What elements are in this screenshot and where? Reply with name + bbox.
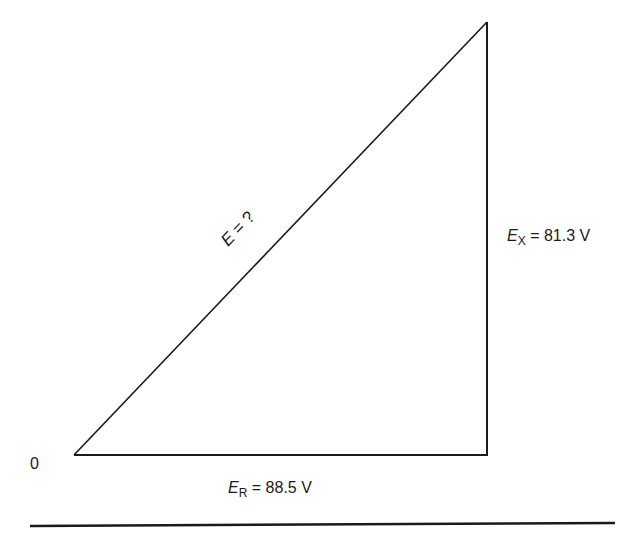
- er-value: = 88.5 V: [247, 479, 312, 496]
- ex-value: = 81.3 V: [526, 227, 591, 244]
- voltage-triangle-diagram: 0 E = ? EX = 81.3 V ER = 88.5 V: [0, 0, 629, 536]
- ex-subscript: X: [518, 234, 526, 248]
- hypotenuse-e: [74, 22, 487, 455]
- hypotenuse-label: E = ?: [217, 208, 258, 250]
- bottom-rule: [30, 523, 615, 526]
- vertical-side-label: EX = 81.3 V: [507, 227, 591, 248]
- ex-symbol: E: [507, 227, 518, 244]
- origin-label: 0: [30, 455, 39, 472]
- er-subscript: R: [239, 486, 248, 500]
- er-symbol: E: [228, 479, 239, 496]
- horizontal-side-label: ER = 88.5 V: [228, 479, 312, 500]
